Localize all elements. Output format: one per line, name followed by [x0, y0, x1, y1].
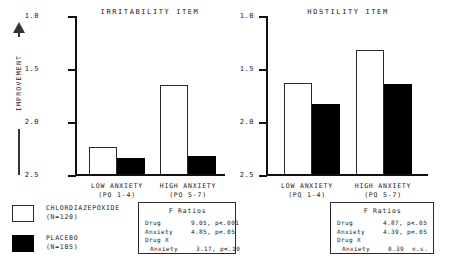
x-group-label-line2: (PQ 1-4) — [288, 191, 326, 199]
f-value: 3.17, p — [196, 245, 224, 252]
x-group-label-line1: LOW ANXIETY — [281, 182, 333, 190]
bar-hostility-low-placebo — [312, 104, 340, 174]
legend-item-placebo: PLACEBO (N=105) — [12, 234, 78, 252]
y-tick-label-4: 2.5 — [0, 171, 39, 179]
x-group-label-line2: (PQ 5-7) — [364, 191, 402, 199]
figure-root: IMPROVEMENT 1.0 1.5 2.0 2.5 IRRITABILITY… — [0, 0, 456, 265]
f-value: 9.05, p — [191, 219, 219, 226]
f-row-name: Drug X — [337, 236, 383, 245]
f-value: 4.85, p — [191, 228, 219, 235]
f-p-value: .05 — [223, 228, 235, 235]
legend-item-chlordiazepoxide: CHLORDIAZEPOXIDE (N=120) — [12, 204, 120, 222]
table-row: Anxiety 3.17, p<.10 — [145, 245, 230, 254]
f-row-value: 3.17, p<.10 — [196, 245, 240, 254]
f-p-value: .05 — [415, 219, 427, 226]
bar-hostility-high-placebo — [384, 84, 412, 174]
x-group-label-line1: HIGH ANXIETY — [355, 182, 412, 190]
improvement-axis: IMPROVEMENT — [6, 22, 32, 172]
bar-hostility-low-chlordiazepoxide — [284, 83, 312, 174]
f-row-value: 9.05, p<.001 — [191, 219, 239, 228]
f-row-name: Drug X — [145, 236, 191, 245]
x-group-label-high-hostility: HIGH ANXIETY (PQ 5-7) — [328, 182, 438, 200]
x-group-label-line1: HIGH ANXIETY — [160, 182, 217, 190]
plot-area-irritability — [75, 16, 225, 176]
y-axis-title: IMPROVEMENT — [14, 37, 24, 129]
f-row-name: Anxiety — [145, 228, 191, 237]
legend-series-name: PLACEBO — [46, 234, 78, 242]
f-p-value: .05 — [415, 228, 427, 235]
f-row-value: 4.39, p<.05 — [383, 228, 428, 237]
y-tick-2 — [259, 69, 267, 71]
f-ratios-table-irritability: F Ratios Drug 9.05, p<.001 Anxiety 4.85,… — [138, 202, 236, 254]
table-row: Anxiety 0.39 n.s. — [337, 245, 428, 254]
y-tick-label-1: 1.0 — [0, 12, 39, 20]
f-ratios-title: F Ratios — [337, 207, 428, 215]
panel-title-irritability: IRRITABILITY ITEM — [75, 8, 225, 16]
f-p-value: n.s. — [412, 245, 428, 252]
table-row: Drug X — [337, 236, 428, 245]
y-tick-label-3: 2.0 — [0, 118, 39, 126]
f-ratios-table-hostility: F Ratios Drug 4.87, p<.05 Anxiety 4.39, … — [330, 202, 434, 254]
y-tick-label-2: 1.5 — [0, 65, 39, 73]
x-group-label-line1: LOW ANXIETY — [91, 182, 143, 190]
f-p-value: .001 — [223, 219, 239, 226]
table-row: Drug 4.87, p<.05 — [337, 219, 428, 228]
x-group-label-line2: (PQ 5-7) — [169, 191, 207, 199]
panel-title-hostility: HOSTILITY ITEM — [268, 8, 428, 16]
f-value: 4.87, p — [383, 219, 411, 226]
legend-label-chlordiazepoxide: CHLORDIAZEPOXIDE (N=120) — [46, 204, 120, 222]
bar-irritability-low-chlordiazepoxide — [89, 147, 117, 174]
table-row: Drug X — [145, 236, 230, 245]
f-row-value — [191, 236, 230, 245]
f-row-name: Drug — [145, 219, 191, 228]
bar-irritability-low-placebo — [117, 158, 145, 174]
table-row: Anxiety 4.39, p<.05 — [337, 228, 428, 237]
f-row-value: 4.85, p<.05 — [191, 228, 235, 237]
y-tick-label-4: 2.5 — [232, 171, 254, 179]
bar-hostility-high-chlordiazepoxide — [356, 50, 384, 174]
bar-irritability-high-placebo — [188, 156, 216, 174]
legend-swatch-solid-icon — [12, 235, 34, 252]
f-ratios-title: F Ratios — [145, 207, 230, 215]
y-tick-4 — [259, 175, 267, 177]
f-value: 0.39 — [388, 245, 404, 252]
legend-series-n: (N=105) — [46, 243, 78, 251]
y-tick-label-2: 1.5 — [232, 65, 254, 73]
f-row-name-cont: Anxiety — [337, 245, 388, 254]
bar-irritability-high-chlordiazepoxide — [160, 85, 188, 174]
x-axis-line — [75, 174, 225, 176]
legend-series-n: (N=120) — [46, 213, 78, 221]
f-p-value: .10 — [228, 245, 240, 252]
plot-area-hostility — [268, 16, 428, 176]
x-group-label-line2: (PQ 1-4) — [98, 191, 136, 199]
f-row-value: 4.87, p<.05 — [383, 219, 428, 228]
y-tick-label-1: 1.0 — [232, 12, 254, 20]
f-row-name: Anxiety — [337, 228, 383, 237]
legend-label-placebo: PLACEBO (N=105) — [46, 234, 78, 252]
y-tick-label-3: 2.0 — [232, 118, 254, 126]
f-row-value — [383, 236, 428, 245]
legend-series-name: CHLORDIAZEPOXIDE — [46, 204, 120, 212]
right-y-axis: 1.0 1.5 2.0 2.5 — [240, 16, 268, 176]
y-tick-3 — [259, 122, 267, 124]
panel-irritability: IRRITABILITY ITEM LOW ANXIETY (PQ 1-4) H… — [75, 10, 225, 185]
table-row: Drug 9.05, p<.001 — [145, 219, 230, 228]
table-row: Anxiety 4.85, p<.05 — [145, 228, 230, 237]
f-row-name-cont: Anxiety — [145, 245, 196, 254]
f-row-name: Drug — [337, 219, 383, 228]
f-value: 4.39, p — [383, 228, 411, 235]
legend-swatch-open-icon — [12, 205, 34, 222]
f-row-value: 0.39 n.s. — [388, 245, 428, 254]
x-axis-line — [268, 174, 428, 176]
x-group-label-high-irritability: HIGH ANXIETY (PQ 5-7) — [142, 182, 234, 200]
y-tick-1 — [259, 16, 267, 18]
panel-hostility: 1.0 1.5 2.0 2.5 HOSTILITY ITEM LOW ANXIE… — [268, 10, 428, 185]
